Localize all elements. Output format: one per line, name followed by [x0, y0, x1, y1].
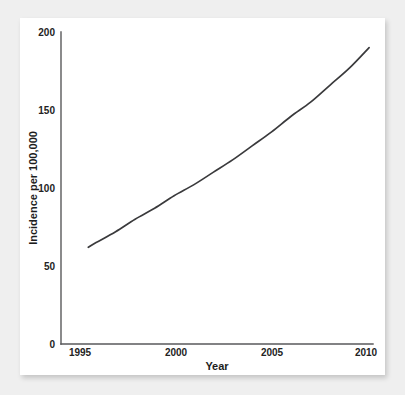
line-chart: 200 150 100 50 0 1995 2000 2005 2010 Yea…: [0, 0, 405, 395]
y-tick-label-150: 150: [38, 105, 55, 116]
y-tick-label-50: 50: [44, 261, 56, 272]
y-tick-label-100: 100: [38, 183, 55, 194]
x-tick-label-2010: 2010: [355, 347, 378, 358]
incidence-curve: [88, 48, 369, 248]
x-tick-label-2005: 2005: [261, 347, 284, 358]
x-axis-title: Year: [205, 360, 229, 372]
y-tick-label-200: 200: [38, 27, 55, 38]
figure-root: 200 150 100 50 0 1995 2000 2005 2010 Yea…: [0, 0, 405, 395]
x-tick-label-2000: 2000: [165, 347, 188, 358]
x-tick-label-1995: 1995: [69, 347, 92, 358]
y-tick-label-0: 0: [49, 339, 55, 350]
y-axis-title: Incidence per 100,000: [27, 131, 39, 245]
